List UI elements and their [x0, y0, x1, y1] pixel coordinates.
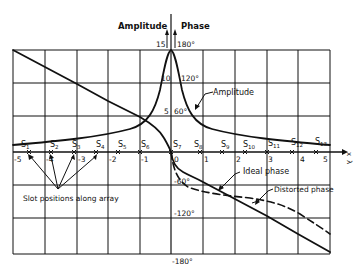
x-tick: 5: [323, 155, 328, 164]
amplitude-tick-5: 5: [164, 107, 169, 116]
x-tick: -5: [14, 155, 22, 164]
phase-tick-neg180: -180°: [172, 257, 193, 266]
svg-text:Distorted phase: Distorted phase: [274, 185, 334, 194]
svg-text:x: x: [345, 152, 353, 156]
slot-label-s12: S12: [291, 138, 303, 148]
slot-label-s7: S7: [173, 140, 182, 150]
svg-text:Amplitude: Amplitude: [213, 88, 254, 97]
antenna-array-amplitude-phase-diagram: Amplitude Phase 15 10 5 180° 120° 60° -6…: [0, 0, 360, 269]
x-tick: 4: [300, 155, 305, 164]
amplitude-tick-15: 15: [156, 40, 166, 49]
slot-label-s5: S5: [118, 140, 127, 150]
amplitude-tick-10: 10: [161, 74, 171, 83]
x-tick: 3: [268, 155, 273, 164]
phase-tick-neg120: -120°: [174, 209, 195, 218]
x-tick: -2: [109, 155, 117, 164]
slot-label-s3: S3: [72, 140, 81, 150]
slot-label-s4: S4: [96, 140, 105, 150]
slot-label-s10: S10: [243, 140, 256, 150]
phase-tick-120: 120°: [181, 74, 199, 83]
slot-positions-annotation: [28, 154, 97, 189]
x-tick: 0: [174, 155, 179, 164]
phase-arrow-icon: [173, 29, 177, 35]
phase-tick-60: 60°: [174, 107, 188, 116]
amplitude-axis-title: Amplitude: [118, 21, 168, 31]
svg-text:λ: λ: [345, 160, 353, 164]
slot-label-s8: S8: [194, 140, 203, 150]
slot-label-s1: S1: [21, 140, 30, 150]
svg-text:Ideal phase: Ideal phase: [243, 167, 289, 176]
distorted-phase-annotation: Distorted phase: [252, 185, 334, 205]
x-axis-label: x λ: [345, 152, 353, 164]
phase-tick-neg60: -60°: [174, 177, 190, 186]
phase-tick-180: 180°: [177, 40, 195, 49]
amplitude-annotation: Amplitude: [195, 88, 254, 110]
x-tick: 2: [236, 155, 241, 164]
x-tick: 1: [204, 155, 209, 164]
slot-positions-label: Slot positions along array: [23, 194, 119, 203]
slot-label-s9: S9: [221, 140, 230, 150]
slot-label-s13: S13: [315, 137, 328, 147]
x-tick: -1: [141, 155, 149, 164]
slot-label-s6: S6: [141, 140, 150, 150]
phase-axis-title: Phase: [181, 21, 210, 31]
x-tick: -3: [78, 155, 86, 164]
